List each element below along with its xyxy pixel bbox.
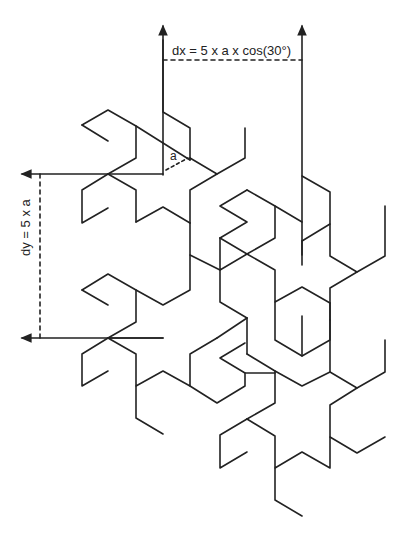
dy-label: dy = 5 x a [18,199,33,256]
dx-label: dx = 5 x a x cos(30°) [172,43,291,58]
dy-dimension [22,174,163,338]
star-tile-4 [220,302,385,516]
star-tile-3 [82,255,275,434]
a-label: a [170,149,177,163]
dx-dimension [163,26,302,265]
tiling-diagram [0,0,406,540]
star-tile-2 [190,176,385,320]
